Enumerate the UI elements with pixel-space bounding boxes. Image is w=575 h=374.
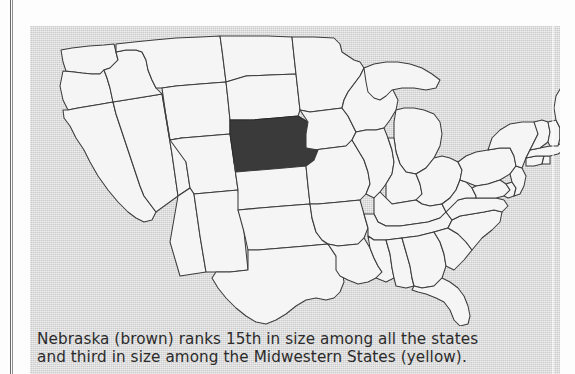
map-figure-panel: Nebraska (brown) ranks 15th in size amon… [30, 26, 560, 374]
state-wyoming [162, 82, 230, 140]
figure-caption-line-2: and third in size among the Midwestern S… [37, 348, 553, 366]
page-gutter-rule-inner [12, 0, 13, 374]
us-map-svg [30, 26, 560, 326]
us-map [30, 26, 560, 326]
state-rhode-island [542, 156, 550, 164]
state-michigan-upper [364, 62, 440, 100]
state-pennsylvania [458, 148, 516, 186]
page-gutter-rule-outer [10, 0, 11, 374]
figure-caption-line-1: Nebraska (brown) ranks 15th in size amon… [37, 330, 553, 348]
scan-artifact-line [552, 26, 554, 374]
state-south-dakota [226, 74, 300, 120]
state-nebraska [230, 116, 318, 172]
scanned-page: Nebraska (brown) ranks 15th in size amon… [0, 0, 575, 374]
